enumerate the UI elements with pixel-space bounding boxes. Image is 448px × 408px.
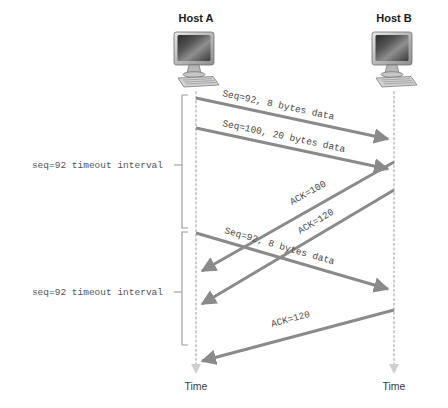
timeout-interval-label-2: seq=92 timeout interval [32, 287, 163, 298]
message-label: ACK=120 [296, 207, 336, 237]
host-b-node: Host B [372, 12, 417, 87]
time-label-host-b: Time [383, 380, 406, 392]
message-label: ACK=120 [270, 309, 312, 330]
message-seq100: Seq=100, 20 bytes data [196, 118, 388, 169]
host-a-label: Host A [178, 12, 213, 24]
timeout-interval-label-1: seq=92 timeout interval [32, 160, 163, 171]
host-a-node: Host A [174, 12, 219, 87]
time-label-host-a: Time [185, 380, 208, 392]
timeout-bracket-1 [174, 95, 188, 228]
host-b-label: Host B [376, 12, 412, 24]
message-seq92-first: Seq=92, 8 bytes data [196, 88, 388, 139]
message-ack120-second: ACK=120 [202, 309, 394, 361]
message-label: Seq=92, 8 bytes data [221, 88, 335, 123]
computer-icon [174, 32, 219, 87]
sequence-diagram: Host A Host B [0, 0, 448, 408]
timeout-bracket-2 [174, 232, 188, 345]
computer-icon [372, 32, 417, 87]
